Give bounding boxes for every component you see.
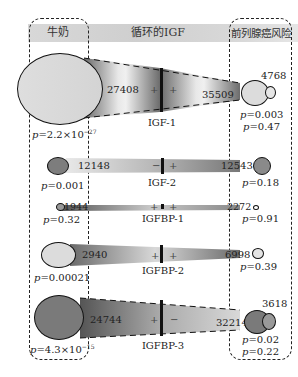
igf1-right-pvalue-2: p=0.47 xyxy=(243,121,280,132)
igfbp2-left-pvalue: p=0.00021 xyxy=(34,272,90,283)
igfbp1-risk-ellipse xyxy=(253,205,259,210)
igf1-right-sign: + xyxy=(169,84,177,95)
igfbp1-left-sign: + xyxy=(150,201,158,212)
igfbp3-right-sign: − xyxy=(170,314,178,325)
igfbp2-right-sign: + xyxy=(169,250,177,261)
igfbp2-label: IGFBP-2 xyxy=(134,265,192,276)
igf1-right-count: 35509 xyxy=(202,89,234,100)
igfbp2-right-pvalue: p=0.39 xyxy=(240,261,277,272)
igfbp1-divider-bar xyxy=(161,204,164,209)
igfbp1-left-pvalue: p=0.32 xyxy=(43,214,80,225)
igf1-left-pvalue: p=2.2×10−27 xyxy=(32,128,96,140)
igfbp3-left-count: 24744 xyxy=(90,314,122,325)
igf2-divider-bar xyxy=(161,158,164,174)
igfbp1-right-sign: + xyxy=(169,201,177,212)
igf2-right-pvalue: p=0.18 xyxy=(242,177,279,188)
igf1-milk-ellipse xyxy=(17,53,103,125)
igf2-left-sign: − xyxy=(152,160,160,171)
igfbp2-right-count: 6998 xyxy=(225,249,250,260)
igfbp3-risk-ellipse-small xyxy=(262,313,276,330)
igfbp3-left-sign: + xyxy=(150,314,158,325)
igfbp3-right-pvalue-2: p=0.22 xyxy=(242,346,279,357)
igfbp1-right-count: 2272 xyxy=(227,201,251,212)
igf1-left-sign: + xyxy=(150,84,158,95)
igf1-left-count: 27408 xyxy=(107,84,139,95)
igf1-label: IGF-1 xyxy=(140,117,184,128)
igfbp1-right-pvalue: p=0.91 xyxy=(242,213,279,224)
igfbp1-left-count: 1944 xyxy=(64,201,88,212)
igf2-milk-ellipse xyxy=(47,157,69,175)
igf2-right-sign: + xyxy=(169,160,177,171)
igf1-divider-bar xyxy=(160,68,163,112)
igf2-risk-ellipse xyxy=(253,157,271,175)
igfbp3-divider-bar xyxy=(160,300,163,336)
igf2-left-pvalue: p=0.001 xyxy=(41,180,84,191)
igf2-left-count: 12148 xyxy=(78,160,110,171)
igf1-risk-ellipse-small xyxy=(265,86,276,99)
igfbp2-left-count: 2940 xyxy=(82,249,107,260)
igfbp3-left-pvalue: p=4.3×10−15 xyxy=(30,343,94,355)
igfbp2-left-sign: + xyxy=(151,250,159,261)
igfbp2-risk-ellipse xyxy=(252,248,264,259)
igf2-right-count: 12543 xyxy=(221,160,253,171)
igfbp2-divider-bar xyxy=(160,245,163,263)
igf1-right-count-2: 4768 xyxy=(261,70,286,81)
igfbp3-milk-ellipse xyxy=(34,295,84,340)
igfbp3-right-count-2: 3618 xyxy=(262,298,287,309)
igf2-label: IGF-2 xyxy=(140,177,184,188)
igf1-right-pvalue: p=0.003 xyxy=(240,109,283,120)
igfbp3-right-pvalue: p=0.02 xyxy=(242,334,279,345)
igfbp3-label: IGFBP-3 xyxy=(134,340,192,351)
igfbp1-label: IGFBP-1 xyxy=(135,213,191,224)
igfbp2-milk-ellipse xyxy=(41,242,76,268)
